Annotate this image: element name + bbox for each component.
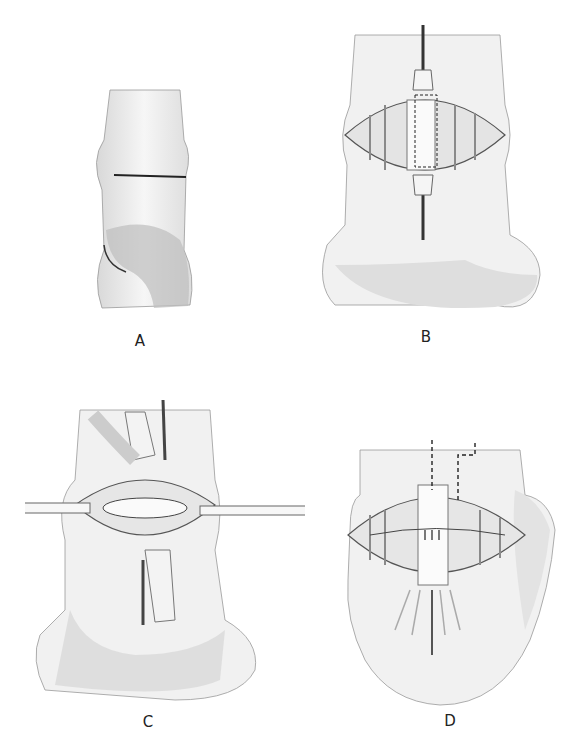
panel-c: C	[25, 400, 305, 735]
heel-illustration-b	[315, 25, 555, 325]
panel-a: A	[80, 80, 200, 350]
panel-label-d: D	[435, 712, 465, 730]
heel-illustration-a	[80, 80, 200, 330]
panel-b: B	[315, 25, 555, 355]
panel-label-a: A	[125, 332, 155, 350]
heel-illustration-c	[25, 400, 305, 710]
panel-label-c: C	[133, 713, 163, 731]
heel-illustration-d	[340, 440, 560, 710]
panel-label-b: B	[411, 328, 441, 346]
panel-d: D	[340, 440, 560, 735]
